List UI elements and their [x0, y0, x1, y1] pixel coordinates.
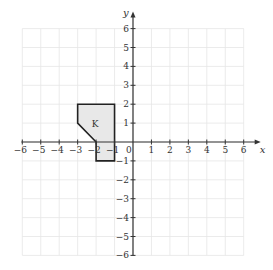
y-tick-label: 3	[123, 80, 129, 90]
coordinate-grid: K −6−5−4−3−2−1123456−6−5−4−3−2−1123456 x…	[0, 0, 273, 270]
x-tick-label: −5	[32, 145, 46, 155]
y-tick-label: 4	[123, 61, 129, 71]
x-tick-label: 6	[241, 145, 247, 155]
x-tick-label: 2	[167, 145, 173, 155]
y-tick-label: −5	[116, 232, 130, 242]
y-tick-label: 2	[123, 99, 129, 109]
y-tick-label: 6	[123, 24, 129, 34]
origin-label: 0	[126, 145, 132, 155]
y-tick-label: −4	[116, 213, 130, 223]
x-tick-label: −4	[51, 145, 65, 155]
x-axis-label: x	[260, 144, 266, 155]
y-axis-arrow-icon	[131, 12, 136, 18]
y-tick-label: −2	[116, 175, 129, 185]
x-tick-label: 4	[204, 145, 210, 155]
x-tick-label: −3	[69, 145, 83, 155]
y-tick-label: −3	[116, 194, 130, 204]
x-tick-label: 1	[149, 145, 155, 155]
x-tick-label: 3	[185, 145, 191, 155]
axes	[21, 12, 260, 256]
y-tick-label: −6	[116, 250, 130, 260]
x-tick-label: −6	[14, 145, 28, 155]
x-tick-label: −1	[106, 145, 119, 155]
y-tick-label: −1	[116, 156, 129, 166]
shape-label: K	[92, 119, 99, 129]
y-axis-label: y	[122, 7, 129, 18]
x-tick-label: 5	[222, 145, 228, 155]
x-tick-label: −2	[87, 145, 100, 155]
y-tick-label: 5	[123, 43, 129, 53]
y-tick-label: 1	[123, 118, 129, 128]
